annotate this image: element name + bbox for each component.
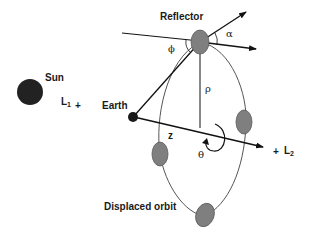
l2-subscript: 2 (290, 150, 294, 157)
reflector-spacecraft (191, 30, 209, 54)
l1-subscript: 1 (67, 101, 71, 108)
earth-reflector-line (134, 43, 199, 116)
earth-body (128, 112, 138, 122)
earth-label: Earth (102, 101, 128, 111)
reflector-label: Reflector (160, 12, 203, 22)
displaced-orbit-diagram: Reflector Sun L1 + Earth + L2 α ϕ ρ z θ … (0, 0, 311, 240)
alpha-angle-arc (215, 33, 217, 45)
sun-label: Sun (45, 73, 64, 83)
rho-label: ρ (205, 84, 211, 94)
theta-arrowhead (202, 138, 209, 145)
incoming-ray-line (122, 33, 200, 41)
l1-marker: + (75, 101, 81, 111)
displaced-orbit-path (159, 42, 246, 216)
l2-label: L2 (284, 146, 294, 157)
phi-label: ϕ (168, 44, 175, 54)
l1-label: L1 (61, 97, 71, 108)
displaced-orbit-label: Displaced orbit (104, 202, 176, 212)
spacecraft-left (152, 142, 168, 166)
theta-label: θ (198, 150, 204, 160)
alpha-label: α (226, 29, 233, 39)
spacecraft-right (236, 110, 252, 134)
z-label: z (168, 131, 173, 141)
sun-body (17, 79, 43, 105)
spacecraft-bottom (192, 201, 217, 230)
l2-marker: + (273, 147, 279, 157)
